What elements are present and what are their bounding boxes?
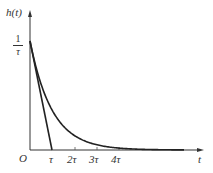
- y-tick-one-over-tau: 1 τ: [13, 34, 23, 57]
- x-tick-label-2tau: 2τ: [67, 154, 76, 165]
- origin-label: O: [19, 153, 27, 164]
- x-tick-label-4tau: 4τ: [111, 154, 120, 165]
- exponential-decay-curve: [30, 41, 184, 150]
- y-tick-denominator: τ: [13, 47, 23, 57]
- y-axis-arrow-icon: [28, 10, 32, 17]
- x-axis-label: t: [198, 154, 201, 165]
- impulse-response-chart: [0, 0, 213, 173]
- y-tick-numerator: 1: [13, 34, 23, 44]
- x-tick-label-3tau: 3τ: [89, 154, 98, 165]
- x-axis-arrow-icon: [197, 148, 204, 152]
- x-tick-label-tau: τ: [49, 154, 53, 165]
- y-axis-label: h(t): [6, 7, 22, 18]
